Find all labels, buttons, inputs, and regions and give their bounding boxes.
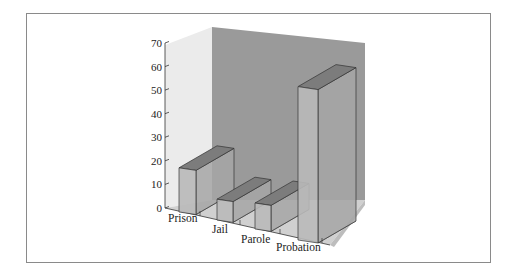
y-tick-label: 70 [151, 37, 163, 49]
y-tick-label: 60 [151, 61, 163, 73]
x-category-label: Prison [168, 212, 198, 224]
x-category-label: Parole [241, 233, 270, 245]
y-tick-label: 20 [151, 155, 163, 167]
bar-chart-3d: 010203040506070 PrisonJailParoleProbatio… [0, 0, 511, 275]
y-tick-label: 30 [151, 131, 163, 143]
y-tick-label: 10 [151, 178, 163, 190]
x-category-label: Jail [212, 223, 228, 235]
y-tick-label: 0 [157, 202, 163, 214]
x-category-label: Probation [276, 241, 321, 253]
y-tick-label: 40 [151, 108, 163, 120]
bar-probation [298, 65, 356, 243]
y-tick-label: 50 [151, 84, 163, 96]
